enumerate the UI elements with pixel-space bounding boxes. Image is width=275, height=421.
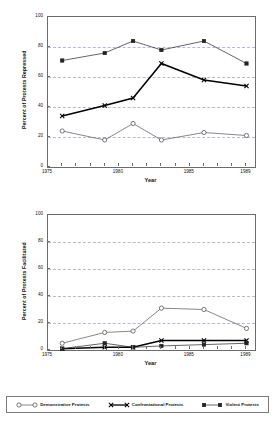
legend-marker-filled-square xyxy=(201,401,223,409)
legend-marker-open-circle xyxy=(16,401,38,409)
series-1 xyxy=(60,306,249,345)
y-axis-tick-label: 100 xyxy=(25,211,43,216)
data-point xyxy=(245,342,248,345)
x-axis-tick xyxy=(175,163,176,166)
series-2 xyxy=(60,338,249,350)
x-axis-tick xyxy=(231,163,232,166)
data-point xyxy=(202,130,206,134)
series-3 xyxy=(60,39,248,65)
x-axis-tick xyxy=(118,346,119,349)
x-axis-tick xyxy=(90,346,91,349)
legend-label: Confrontational Protests xyxy=(132,402,183,407)
y-axis-title-repressed: Percent of Protests Repressed xyxy=(21,51,27,129)
series-layer xyxy=(48,215,255,350)
series-1 xyxy=(60,121,249,142)
y-axis-tick xyxy=(47,349,50,350)
data-point xyxy=(159,138,163,142)
data-point xyxy=(159,306,163,310)
chart-facilitated: Percent of Protests Facilitated xyxy=(0,200,275,385)
data-point xyxy=(103,342,106,345)
legend-item-1: Demonstrative Protests xyxy=(16,401,89,409)
x-axis-tick xyxy=(146,346,147,349)
data-point xyxy=(244,326,248,330)
y-axis-tick xyxy=(47,166,50,167)
x-axis-tick xyxy=(175,346,176,349)
x-axis-tick xyxy=(217,346,218,349)
figure-page: Percent of Protests Repressed xyxy=(0,0,275,421)
x-axis-tick-label: 1985 xyxy=(177,352,201,357)
legend: Demonstrative Protests Confrontational P… xyxy=(6,396,269,413)
x-axis-tick-label: 1980 xyxy=(106,169,130,174)
data-point xyxy=(160,48,163,51)
y-axis-tick-label: 60 xyxy=(25,265,43,270)
data-point xyxy=(60,129,64,133)
y-axis-tick xyxy=(47,214,50,215)
x-axis-tick xyxy=(160,163,161,166)
x-axis-tick-label: 1975 xyxy=(35,169,59,174)
y-axis-tick-label: 100 xyxy=(25,13,43,18)
x-axis-tick-label: 1989 xyxy=(233,169,257,174)
y-axis-title-facilitated: Percent of Protests Facilitated xyxy=(21,242,27,320)
legend-marker-x-cross xyxy=(108,401,130,409)
x-axis-tick xyxy=(132,346,133,349)
plot-area-facilitated xyxy=(47,214,256,351)
data-point xyxy=(103,51,106,54)
x-axis-title-facilitated: Year xyxy=(47,360,254,366)
x-axis-tick xyxy=(146,163,147,166)
y-axis-tick xyxy=(47,322,50,323)
data-point xyxy=(131,329,135,333)
x-axis-tick xyxy=(132,163,133,166)
x-axis-tick-label: 1985 xyxy=(177,169,201,174)
y-axis-tick xyxy=(47,106,50,107)
x-axis-tick xyxy=(61,163,62,166)
y-axis-tick-label: 60 xyxy=(25,73,43,78)
y-axis-tick-label: 0 xyxy=(25,346,43,351)
legend-item-2: Confrontational Protests xyxy=(108,401,183,409)
y-axis-tick xyxy=(47,268,50,269)
y-axis-tick xyxy=(47,241,50,242)
y-axis-tick xyxy=(47,46,50,47)
data-point xyxy=(202,39,205,42)
plot-area-repressed xyxy=(47,16,256,168)
data-point xyxy=(103,330,107,334)
x-axis-tick xyxy=(231,346,232,349)
x-axis-tick xyxy=(104,346,105,349)
legend-item-3: Violent Protests xyxy=(201,401,258,409)
legend-label: Demonstrative Protests xyxy=(40,402,89,407)
y-axis-tick-label: 40 xyxy=(25,103,43,108)
x-axis-tick xyxy=(47,163,48,166)
x-axis-tick xyxy=(90,163,91,166)
x-axis-tick xyxy=(217,163,218,166)
y-axis-tick xyxy=(47,136,50,137)
data-point xyxy=(131,39,134,42)
x-axis-tick xyxy=(75,163,76,166)
data-point xyxy=(244,133,248,137)
data-point xyxy=(131,121,135,125)
y-axis-tick-label: 20 xyxy=(25,133,43,138)
x-axis-tick xyxy=(245,346,246,349)
x-axis-tick xyxy=(47,346,48,349)
data-point xyxy=(60,59,63,62)
x-axis-tick xyxy=(189,346,190,349)
y-axis-tick-label: 80 xyxy=(25,238,43,243)
y-axis-tick xyxy=(47,295,50,296)
data-point xyxy=(60,341,64,345)
x-axis-tick xyxy=(118,163,119,166)
y-axis-tick-label: 40 xyxy=(25,292,43,297)
x-axis-tick xyxy=(104,163,105,166)
x-axis-title-repressed: Year xyxy=(47,177,254,183)
y-axis-tick-label: 20 xyxy=(25,319,43,324)
x-axis-tick-label: 1980 xyxy=(106,352,130,357)
chart-repressed: Percent of Protests Repressed xyxy=(0,0,275,200)
y-axis-tick-label: 80 xyxy=(25,43,43,48)
data-point xyxy=(202,307,206,311)
x-axis-tick xyxy=(203,163,204,166)
x-axis-tick xyxy=(189,163,190,166)
x-axis-tick xyxy=(203,346,204,349)
y-axis-tick-label: 0 xyxy=(25,163,43,168)
series-layer xyxy=(48,17,255,167)
data-point xyxy=(103,138,107,142)
y-axis-tick xyxy=(47,76,50,77)
x-axis-tick xyxy=(75,346,76,349)
legend-label: Violent Protests xyxy=(225,402,258,407)
